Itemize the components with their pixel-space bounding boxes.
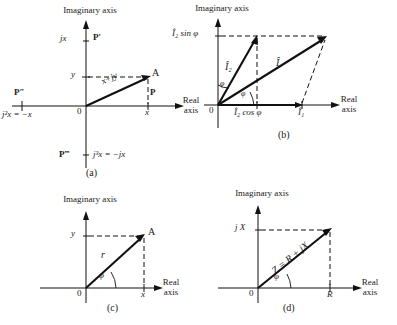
- vector-x-plus-jy: [86, 78, 147, 106]
- imaginary-axis-arrow-d: [255, 205, 261, 214]
- tick-label-r-d: R: [327, 290, 333, 299]
- real-axis-label-c-line2: axis: [156, 288, 186, 297]
- label-i2-vector: Î₂: [225, 62, 232, 73]
- tick-label-jx: jx: [60, 34, 67, 43]
- angle-label-upper-b: φ: [220, 80, 224, 88]
- point-label-p-double-prime: P″: [14, 88, 24, 97]
- angle-label-c: φ: [99, 271, 104, 280]
- point-label-p-triple-prime: P‴: [59, 150, 69, 159]
- vector-label-r: r: [101, 250, 105, 261]
- real-axis-label-d-line1: Real: [355, 278, 385, 287]
- vector-i2: [218, 40, 255, 105]
- panel-d-caption: (d): [283, 303, 295, 314]
- tick-label-jx-d: j X: [235, 223, 245, 232]
- panel-d-impedance-triangle: Imaginary axis Real axis 0 j X R Z = R +…: [198, 185, 397, 325]
- angle-arc-lower-b: [250, 92, 254, 105]
- point-label-a-c: A: [148, 227, 155, 238]
- origin-label-b: 0: [209, 106, 214, 115]
- angle-label-lower-b: φ: [241, 90, 245, 98]
- label-i-vector: Î: [276, 58, 279, 69]
- tick-label-x-c: x: [141, 290, 145, 299]
- label-i2-cos-phi: Î₂ cos φ: [234, 108, 262, 117]
- label-j-squared-x: j²x = −x: [2, 110, 32, 119]
- imaginary-axis-label-b: Imaginary axis: [176, 4, 268, 13]
- panel-a-rectangular-form: Imaginary axis Real axis 0 jx P′ y x A P…: [0, 0, 198, 180]
- tick-label-y-a: y: [71, 70, 75, 79]
- point-label-p: P: [150, 88, 156, 97]
- real-axis-label-b-line2: axis: [334, 105, 364, 114]
- label-i1: Î₁: [298, 108, 304, 117]
- origin-label-d: 0: [249, 289, 254, 298]
- real-axis-label-c-line1: Real: [156, 278, 186, 287]
- origin-label-c: 0: [77, 289, 82, 298]
- angle-arc-c: [111, 272, 116, 288]
- panel-b-graphic: [198, 0, 397, 160]
- real-axis-label-b-line1: Real: [334, 95, 364, 104]
- label-i2-sin-phi: Î₂ sin φ: [172, 29, 198, 38]
- panel-c-polar-form: Imaginary axis Real axis 0 y x A r φ (c): [0, 185, 198, 325]
- point-label-p-prime: P′: [93, 33, 101, 42]
- imaginary-axis-arrow-a: [83, 20, 89, 29]
- imaginary-axis-label-a: Imaginary axis: [44, 6, 136, 15]
- angle-label-d: φ: [274, 272, 279, 281]
- tick-label-y-c: y: [71, 229, 75, 238]
- panel-a-caption: (a): [86, 168, 97, 179]
- panel-b-caption: (b): [278, 130, 290, 141]
- real-axis-label-d-line2: axis: [355, 288, 385, 297]
- imaginary-axis-arrow-b: [215, 18, 221, 27]
- panel-c-caption: (c): [107, 303, 118, 314]
- origin-label-a: 0: [77, 107, 82, 116]
- label-j-cubed-x: j³x = −jx: [93, 150, 125, 159]
- point-label-a: A: [152, 68, 159, 79]
- imaginary-axis-arrow-c: [83, 211, 89, 220]
- panel-c-graphic: [0, 185, 198, 325]
- imaginary-axis-label-c: Imaginary axis: [44, 195, 136, 204]
- vector-r: [86, 238, 141, 288]
- imaginary-axis-label-d: Imaginary axis: [216, 189, 308, 198]
- angle-arc-d: [287, 274, 291, 288]
- tick-label-x-a: x: [145, 108, 149, 117]
- vector-i-resultant: [218, 40, 322, 105]
- panel-b-phasor-addition: Imaginary axis Real axis 0 Î₂ sin φ Î₂ c…: [198, 0, 397, 160]
